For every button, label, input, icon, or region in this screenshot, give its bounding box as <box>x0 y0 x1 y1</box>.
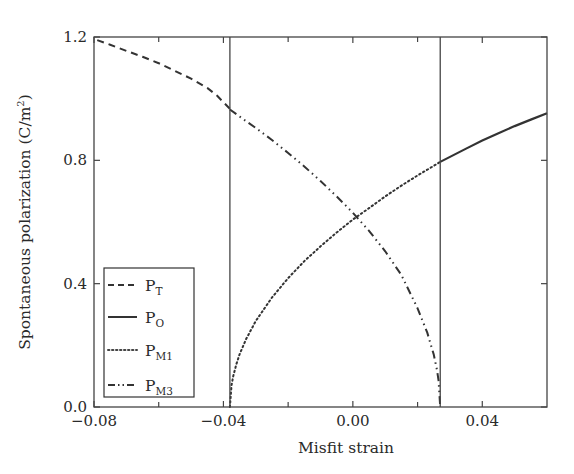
legend: PT PO PM1 PM3 <box>104 268 194 397</box>
y-tick-label: 1.2 <box>63 28 87 46</box>
y-tick-label: 0.8 <box>63 151 87 169</box>
series-p-t <box>97 40 230 109</box>
x-tick-label: −0.04 <box>200 412 246 430</box>
y-tick-label: 0.0 <box>63 398 87 416</box>
x-tick-label: 0.04 <box>466 412 499 430</box>
phase-boundary-layer <box>230 37 440 407</box>
series-p-o <box>440 113 547 162</box>
y-tick-label: 0.4 <box>63 275 87 293</box>
x-axis-label: Misfit strain <box>298 439 394 457</box>
y-axis-label: Spontaneous polarization (C/m2) <box>15 94 34 350</box>
x-tick-label: 0.00 <box>336 412 369 430</box>
series-p-m3 <box>230 109 440 407</box>
series-p-m1 <box>230 162 440 407</box>
polarization-chart: −0.08−0.040.000.040.00.40.81.2 PT PO PM1… <box>0 0 574 474</box>
